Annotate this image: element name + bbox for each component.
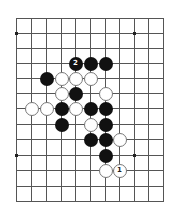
star-point (15, 154, 18, 157)
black-stone (99, 118, 113, 132)
grid-line-vertical (163, 18, 164, 202)
black-stone (99, 57, 113, 71)
star-point (133, 32, 136, 35)
grid-line-vertical (134, 18, 135, 202)
star-point (133, 154, 136, 157)
white-stone (69, 102, 83, 116)
black-stone (99, 102, 113, 116)
black-stone: 2 (69, 57, 83, 71)
black-stone (69, 87, 83, 101)
white-stone (69, 72, 83, 86)
black-stone (55, 118, 69, 132)
black-stone (99, 149, 113, 163)
white-stone (25, 102, 39, 116)
black-stone (84, 102, 98, 116)
black-stone (40, 72, 54, 86)
white-stone (55, 87, 69, 101)
black-stone (84, 57, 98, 71)
black-stone (55, 102, 69, 116)
white-stone (99, 87, 113, 101)
grid-line-vertical (16, 18, 17, 202)
white-stone (40, 102, 54, 116)
black-stone (99, 133, 113, 147)
grid-line-vertical (148, 18, 149, 202)
white-stone (84, 72, 98, 86)
white-stone (84, 118, 98, 132)
white-stone: 1 (113, 164, 127, 178)
go-board: 21 (0, 0, 179, 216)
white-stone (55, 72, 69, 86)
white-stone (113, 133, 127, 147)
black-stone (84, 133, 98, 147)
white-stone (99, 164, 113, 178)
star-point (15, 32, 18, 35)
